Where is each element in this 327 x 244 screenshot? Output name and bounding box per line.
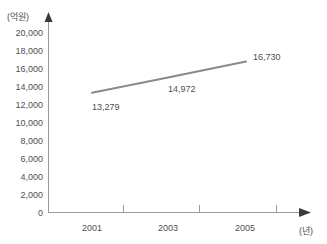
x-axis-tick-label: 2005 [225,223,265,233]
x-axis-arrow-icon [299,208,311,217]
y-axis-unit-label: (억원) [7,10,29,23]
y-axis-tick-label: 2,000 [20,190,43,200]
x-axis-ticks [124,205,277,212]
y-axis-tick-label: 18,000 [15,46,43,56]
data-point-label: 16,730 [253,52,281,62]
data-point-label: 14,972 [168,84,196,94]
y-axis-tick-label: 12,000 [15,100,43,110]
x-axis-tick-label: 2003 [148,223,188,233]
x-axis-unit-label: (년) [299,224,313,237]
y-axis-tick-label: 6,000 [20,154,43,164]
y-axis-tick-label: 10,000 [15,118,43,128]
y-axis-arrow-icon [45,12,53,22]
y-axis-tick-label: 20,000 [15,28,43,38]
y-axis-tick-label: 14,000 [15,82,43,92]
y-axis-tick-label: 8,000 [20,136,43,146]
data-point-label: 13,279 [92,102,120,112]
y-axis-tick-label: 0 [38,208,43,218]
line-chart: (억원) (년) 20,000 18,000 16,000 14,000 12,… [0,0,327,244]
chart-canvas [0,0,327,244]
y-axis-tick-label: 16,000 [15,64,43,74]
y-axis-tick-label: 4,000 [20,172,43,182]
x-axis-tick-label: 2001 [72,223,112,233]
